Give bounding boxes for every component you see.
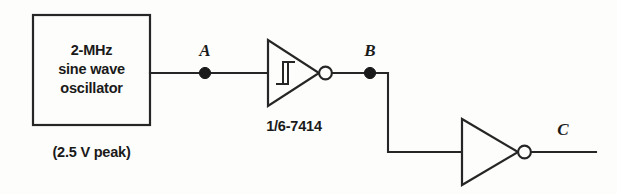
node-label-c: C (557, 120, 569, 139)
oscillator-line-2: sine wave (58, 61, 125, 77)
schmitt-inverter-body (268, 40, 319, 106)
node-label-b: B (363, 41, 375, 60)
oscillator-line-3: oscillator (60, 80, 123, 96)
node-label-a: A (198, 41, 210, 60)
plain-inverter-bubble (518, 146, 531, 159)
oscillator-peak-caption: (2.5 V peak) (52, 144, 131, 160)
plain-inverter-body (462, 119, 518, 185)
circuit-diagram: 2-MHz sine wave oscillator (2.5 V peak) … (0, 0, 617, 194)
node-dot-a (199, 67, 210, 78)
oscillator-line-1: 2-MHz (71, 42, 113, 58)
schmitt-inverter-part-label: 1/6-7414 (266, 118, 322, 134)
wire-schmitt-to-inverter (332, 73, 462, 152)
schmitt-inverter-bubble (319, 67, 332, 80)
circuit-schematic-canvas: 2-MHz sine wave oscillator (2.5 V peak) … (0, 0, 617, 194)
node-dot-b (364, 67, 375, 78)
